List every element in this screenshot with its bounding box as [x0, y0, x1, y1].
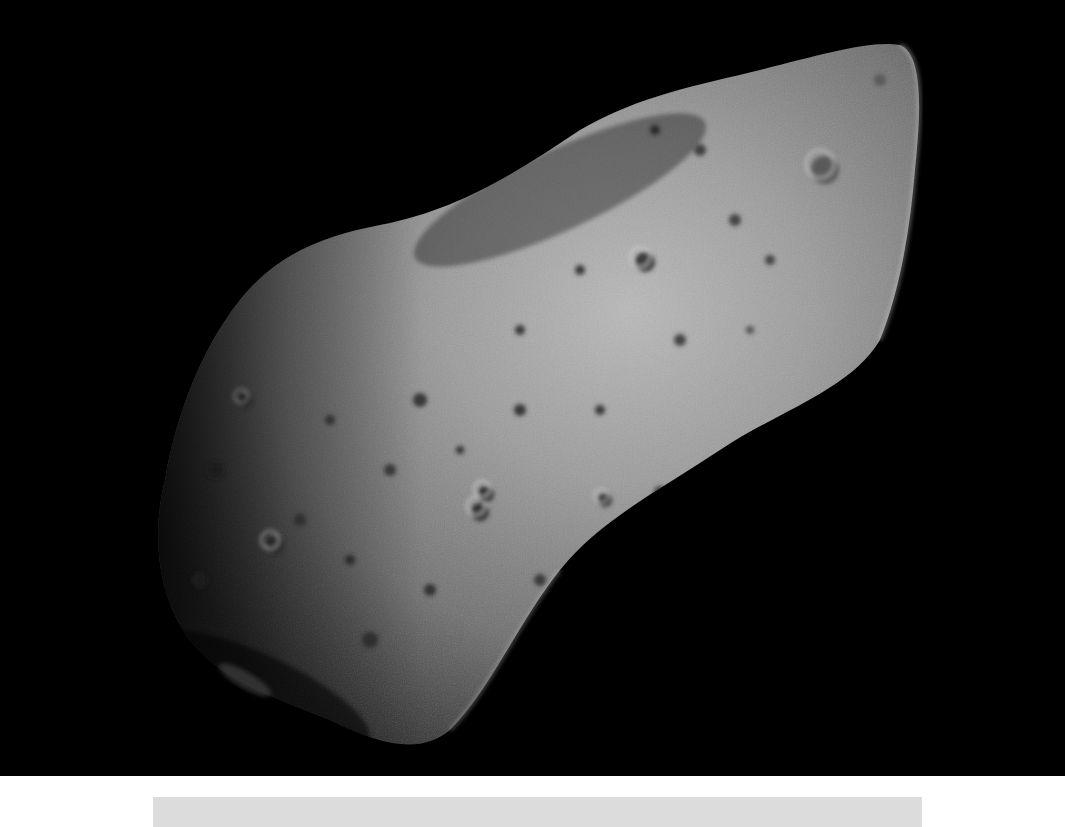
asteroid-illustration [0, 0, 1065, 776]
bottom-strip [0, 776, 1065, 819]
caption-bar [153, 797, 922, 827]
asteroid-body [0, 0, 1065, 776]
asteroid-photo [0, 0, 1065, 776]
